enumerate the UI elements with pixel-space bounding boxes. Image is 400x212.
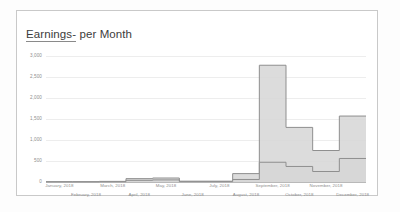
chart-title: Earnings- per Month: [26, 28, 132, 40]
x-axis-tick-label: November, 2018: [310, 184, 343, 188]
x-axis-tick-label: January, 2018: [45, 184, 73, 188]
y-axis-tick-label: 0: [39, 180, 42, 185]
x-axis-tick-label: August, 2018: [233, 193, 259, 197]
chart-title-underlined-part: Earnings-: [26, 28, 76, 42]
x-axis-tick-label: May, 2018: [156, 184, 177, 188]
area-series-group: [46, 56, 366, 182]
screenshot-page: Earnings- per Month 05001,0001,5002,0002…: [0, 0, 400, 212]
x-axis-tick-label: April, 2018: [129, 193, 151, 197]
y-axis-labels: 05001,0001,5002,0002,5003,000: [17, 56, 44, 182]
plot-area: [46, 56, 366, 182]
y-axis-tick-label: 3,000: [30, 54, 42, 59]
x-axis-tick-label: March, 2018: [100, 184, 125, 188]
y-axis-tick-label: 500: [34, 159, 42, 164]
y-axis-tick-label: 2,500: [30, 75, 42, 80]
y-axis-tick-label: 1,500: [30, 117, 42, 122]
y-axis-tick-label: 1,000: [30, 138, 42, 143]
chart-title-rest: per Month: [76, 28, 132, 40]
x-axis-tick-label: June, 2018: [182, 193, 204, 197]
x-axis-tick-label: October, 2018: [285, 193, 313, 197]
y-axis-tick-label: 2,000: [30, 96, 42, 101]
x-axis-tick-label: July, 2018: [209, 184, 229, 188]
x-axis-tick-label: December, 2018: [336, 193, 369, 197]
chart-card: Earnings- per Month 05001,0001,5002,0002…: [16, 10, 378, 196]
x-axis-labels: January, 2018February, 2018March, 2018Ap…: [46, 182, 366, 204]
x-axis-tick-label: February, 2018: [71, 193, 101, 197]
area-fill-series-0: [46, 65, 366, 182]
x-axis-tick-label: September, 2018: [256, 184, 290, 188]
